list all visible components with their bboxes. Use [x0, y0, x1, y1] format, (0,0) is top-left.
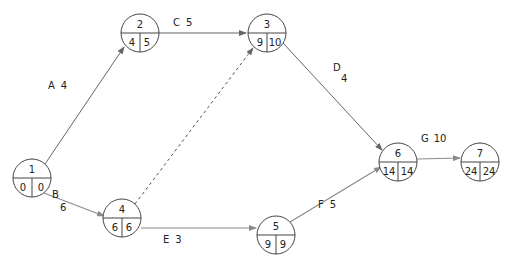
edge-label-b-activity: B — [52, 189, 59, 200]
node-id: 3 — [264, 19, 270, 30]
node-late-time: 5 — [144, 37, 150, 48]
node-id: 1 — [29, 164, 35, 175]
node-1: 1 0 0 — [13, 159, 51, 197]
node-2: 2 4 5 — [121, 14, 159, 52]
edge-f — [290, 167, 381, 222]
node-early-time: 4 — [129, 37, 135, 48]
node-4: 4 6 6 — [103, 199, 141, 237]
network-diagram: A4 B 6 C5 D 4 E3 F5 G10 1 0 0 2 4 5 3 9 … — [0, 0, 511, 262]
node-early-time: 6 — [112, 222, 118, 233]
node-id: 5 — [273, 221, 279, 232]
edge-label-f: F5 — [318, 199, 336, 210]
node-late-time: 9 — [280, 239, 286, 250]
node-early-time: 14 — [383, 166, 396, 177]
edge-label-c: C5 — [173, 17, 192, 28]
edge-dummy-4-3 — [135, 48, 253, 204]
node-early-time: 9 — [265, 239, 271, 250]
node-late-time: 0 — [38, 182, 44, 193]
node-early-time: 24 — [465, 166, 478, 177]
edge-g — [417, 158, 460, 159]
node-id: 2 — [137, 19, 143, 30]
edge-label-a: A4 — [48, 80, 67, 91]
node-6: 6 14 14 — [379, 143, 417, 181]
node-5: 5 9 9 — [257, 216, 295, 254]
node-7: 7 24 24 — [461, 143, 499, 181]
edge-label-g: G10 — [421, 133, 446, 144]
node-3: 3 9 10 — [248, 14, 286, 52]
edge-label-e: E3 — [163, 234, 182, 245]
node-early-time: 0 — [20, 182, 26, 193]
node-late-time: 24 — [483, 166, 496, 177]
node-late-time: 10 — [269, 37, 282, 48]
node-id: 7 — [477, 148, 483, 159]
edge-label-d-duration: 4 — [341, 73, 347, 84]
node-id: 4 — [119, 204, 125, 215]
node-id: 6 — [395, 148, 401, 159]
edge-a — [45, 47, 124, 164]
edge-d — [283, 43, 382, 150]
edge-label-b-duration: 6 — [60, 202, 66, 213]
node-late-time: 6 — [126, 222, 132, 233]
node-late-time: 14 — [401, 166, 414, 177]
node-early-time: 9 — [257, 37, 263, 48]
edge-label-d-activity: D — [333, 62, 341, 73]
